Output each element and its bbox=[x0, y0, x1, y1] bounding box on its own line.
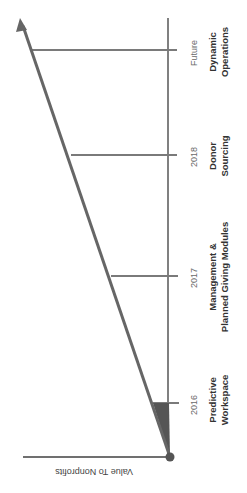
year-label-2016: 2016 bbox=[189, 395, 199, 415]
origin-dot bbox=[166, 453, 175, 462]
value-timeline-diagram: Value To Nonprofits 2016 2017 2018 Futur… bbox=[0, 0, 247, 493]
year-label-future: Future bbox=[189, 40, 199, 66]
stage-label-management-l2: Planned Giving Modules bbox=[219, 222, 230, 332]
year-label-2017: 2017 bbox=[189, 268, 199, 288]
stage-label-dynamic-operations-l2: Operations bbox=[219, 27, 230, 77]
stage-label-donor-sourcing-l2: Sourcing bbox=[219, 135, 230, 176]
stage-label-management-l1: Management & bbox=[207, 243, 218, 311]
value-axis-label: Value To Nonprofits bbox=[55, 467, 133, 477]
stage-label-predictive-workspace-l2: Workspace bbox=[219, 375, 230, 426]
arrow-head-icon bbox=[16, 18, 27, 32]
stage-label-dynamic-operations-l1: Dynamic bbox=[207, 32, 218, 72]
stage-label-donor-sourcing-l1: Donor bbox=[207, 142, 218, 170]
year-label-2018: 2018 bbox=[189, 147, 199, 167]
stage-label-predictive-workspace-l1: Predictive bbox=[207, 377, 218, 422]
growth-arrow-line bbox=[23, 26, 170, 457]
